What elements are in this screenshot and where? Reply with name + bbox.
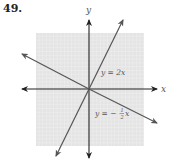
coordinate-plane-graph: y x y = 2x y = − 1 2 x xyxy=(0,0,174,164)
line2-denominator: 2 xyxy=(120,114,124,120)
line2-prefix: y = − xyxy=(94,109,117,118)
line2-numerator: 1 xyxy=(121,107,124,113)
line1-label: y = 2x xyxy=(100,68,126,77)
y-axis-label: y xyxy=(85,5,92,15)
x-axis-label: x xyxy=(161,84,166,94)
